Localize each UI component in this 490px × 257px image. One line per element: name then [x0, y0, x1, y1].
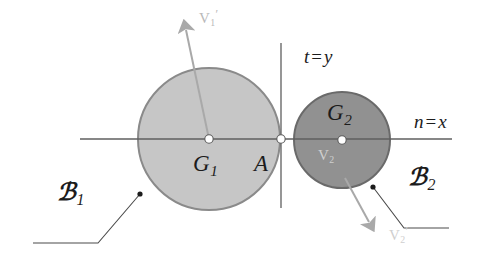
center-point-g2: [338, 136, 346, 144]
label-g1-sub: 1: [210, 162, 218, 179]
label-n-equals-sign: =: [424, 111, 439, 132]
label-b1-main: ℬ: [57, 177, 76, 206]
label-b1: ℬ1: [57, 180, 84, 208]
label-contact-a-main: A: [254, 151, 268, 176]
label-g2-sub: 2: [344, 111, 352, 128]
label-b2-sub: 2: [427, 176, 435, 193]
label-v2-inner: V2: [318, 148, 334, 165]
label-g1-main: G: [193, 151, 210, 176]
label-n-equals-x: n=x: [414, 112, 447, 131]
label-v2-inner-main: V: [318, 147, 329, 163]
label-g2-main: G: [327, 100, 344, 125]
label-n-var: n: [414, 111, 424, 132]
label-b2-main: ℬ: [408, 162, 427, 191]
label-contact-a: A: [254, 152, 268, 175]
label-t-equals-sign: =: [309, 46, 324, 67]
label-b1-sub: 1: [76, 191, 84, 208]
leader-line-b1: [33, 194, 140, 243]
label-v1-prime: V1′: [199, 8, 218, 28]
leader-dot-b1: [137, 191, 142, 196]
label-v2-prime: V2′: [389, 225, 408, 245]
center-point-g1: [205, 135, 213, 143]
label-v1-prime-main: V: [199, 10, 210, 26]
label-v2-prime-main: V: [389, 227, 400, 243]
leader-dot-b2: [370, 184, 375, 189]
label-g1: G1: [193, 152, 218, 178]
leader-line-b2: [373, 187, 449, 228]
label-t-equals-y: t=y: [304, 47, 332, 66]
label-b2: ℬ2: [408, 165, 435, 193]
figure-canvas: V1′ t=y n=x G2 V2 G1 A ℬ1 ℬ2 V2′: [0, 0, 490, 257]
contact-point-a: [277, 135, 285, 143]
label-v1-prime-mark: ′: [215, 7, 218, 21]
label-g2: G2: [327, 101, 352, 127]
label-y-var: y: [324, 46, 332, 67]
label-x-var: x: [438, 111, 446, 132]
label-v2-inner-sub: 2: [329, 154, 334, 165]
label-v2-prime-mark: ′: [405, 224, 408, 238]
